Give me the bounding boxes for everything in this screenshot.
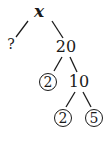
- root-node-x: x: [34, 3, 44, 19]
- edge-root-20: [52, 21, 63, 38]
- unknown-factor-node: ?: [7, 36, 15, 52]
- node-10: 10: [69, 74, 89, 90]
- prime-node-2: 2: [39, 73, 57, 91]
- edge-20-10: [70, 57, 77, 72]
- prime-node-2-second: 2: [54, 109, 72, 127]
- node-20: 20: [56, 39, 76, 55]
- edge-20-2: [54, 57, 62, 71]
- prime-node-5: 5: [85, 109, 103, 127]
- edge-10-2: [66, 92, 75, 107]
- edge-10-5: [83, 92, 91, 107]
- edge-root-unknown: [16, 21, 28, 37]
